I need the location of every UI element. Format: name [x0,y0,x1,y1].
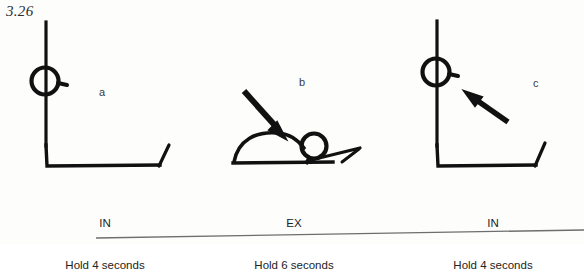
panel-letter-c: c [533,77,539,89]
panel-a-leg-line [46,145,160,166]
panel-b-arrow-down-right [244,91,286,139]
panel-b-head-circle [302,134,327,159]
panel-a-hold-label: Hold 4 seconds [28,258,182,272]
panel-c-breath-label: IN [416,216,570,230]
panel-b-arched-back-line [234,133,304,162]
panel-b-caption: EX Hold 6 seconds [217,188,371,273]
figure-number: 3.26 [6,3,33,20]
panel-c-arrow-up-left [464,91,508,122]
panel-b-ground-line [233,162,333,163]
panel-b-leg-line [307,148,360,161]
panel-c-caption: IN Hold 4 seconds [416,188,570,273]
panel-c-hold-label: Hold 4 seconds [416,258,570,272]
panel-b-breath-label: EX [217,216,371,230]
panel-b-neck-line [307,157,309,163]
panel-a-head-circle [32,68,59,95]
panel-letter-a: a [99,86,105,98]
panel-b-hold-label: Hold 6 seconds [217,258,371,272]
panel-b-foot-line [342,149,359,162]
panel-a-foot-line [159,145,169,166]
panel-c-arm-stub [449,74,458,76]
panel-c-leg-line [437,145,536,166]
panel-a-caption: IN Hold 4 seconds [28,188,182,273]
panel-a-breath-label: IN [28,216,182,230]
panel-letter-b: b [299,76,305,88]
panel-b-figure [233,91,360,163]
panel-c-foot-line [535,143,545,166]
panel-c-figure [423,21,546,166]
panel-c-head-circle [423,59,450,86]
panel-a-arm-stub [58,83,67,85]
